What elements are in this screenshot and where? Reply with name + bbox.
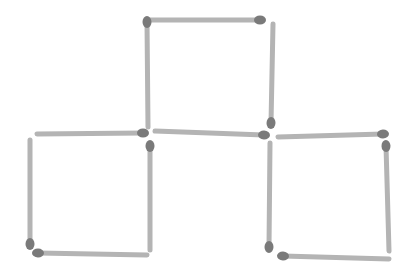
matchstick-diagram: [0, 0, 412, 280]
match-stick-body: [37, 133, 143, 134]
match-head-icon: [146, 140, 155, 152]
match-stick-body: [38, 253, 147, 255]
match-stick-body: [271, 24, 273, 123]
match-stick-body: [283, 256, 389, 259]
match-stick-body: [386, 146, 389, 251]
match-stick-body: [269, 143, 270, 247]
match-head-icon: [26, 238, 35, 250]
match-stick-body: [278, 134, 383, 137]
background: [0, 0, 412, 280]
match-head-icon: [254, 16, 266, 25]
match-stick-body: [147, 22, 148, 127]
